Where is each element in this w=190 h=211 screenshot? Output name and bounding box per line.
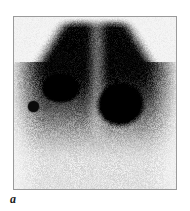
panel-caption-label: a [10,192,16,206]
reference-marker-left-icon [28,101,39,112]
figure-panel: a [0,0,190,211]
scan-image-frame [13,16,177,190]
